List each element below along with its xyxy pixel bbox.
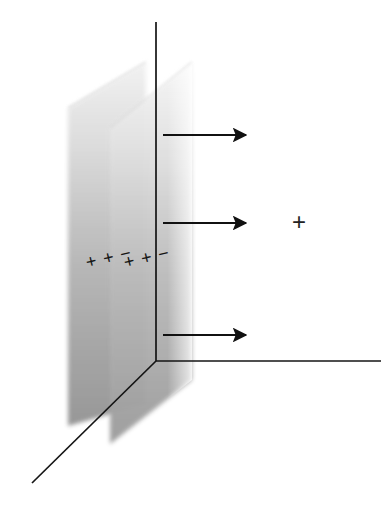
diagram-svg <box>0 0 392 507</box>
physics-diagram-canvas: + + − + + − + <box>0 0 392 507</box>
test-charge-symbol: + <box>292 210 306 234</box>
